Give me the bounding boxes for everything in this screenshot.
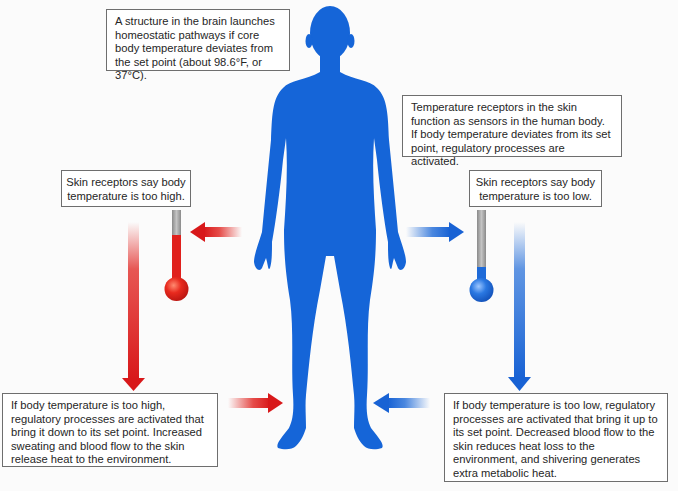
too-low-receptor-label: Skin receptors say body temperature is t… <box>469 170 602 207</box>
heat-response-down-arrow-icon <box>122 222 145 391</box>
heat-signal-arrow-icon <box>190 222 242 242</box>
cold-response-down-arrow-icon <box>508 222 531 391</box>
too-high-receptor-label: Skin receptors say body temperature is t… <box>61 170 191 207</box>
too-high-response-label: If body temperature is too high, regulat… <box>2 393 218 467</box>
thermometer-low-icon <box>470 210 494 302</box>
heat-response-arrow-icon <box>228 393 283 413</box>
human-body-icon <box>254 6 406 449</box>
thermometer-high-icon <box>165 210 189 301</box>
cold-signal-arrow-icon <box>406 222 464 242</box>
cold-response-arrow-icon <box>373 393 430 413</box>
brain-control-center-label: A structure in the brain launches homeos… <box>106 9 290 71</box>
too-low-response-label: If body temperature is too low, regulato… <box>444 393 668 482</box>
skin-sensors-label: Temperature receptors in the skin functi… <box>402 95 622 157</box>
